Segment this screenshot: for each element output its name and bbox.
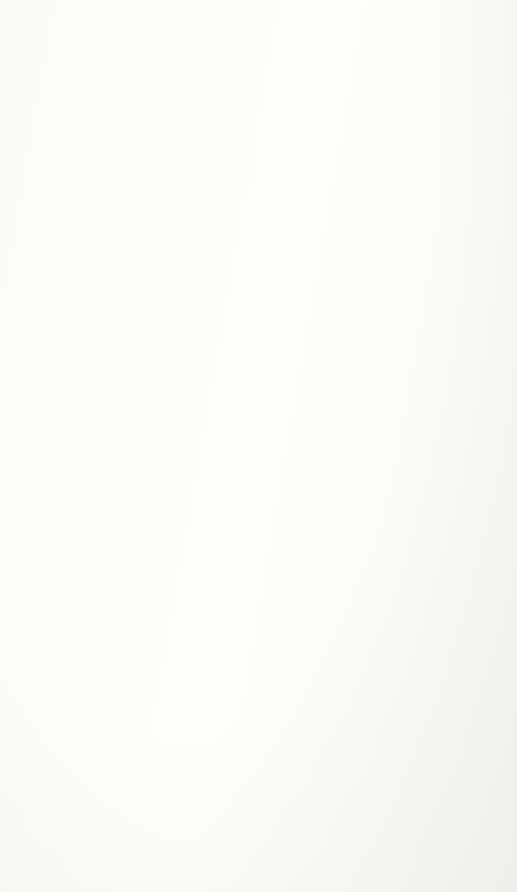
scanned-page: Federal Expenditure Distribution (total … [0, 0, 517, 892]
pie-chart-2013: Non-defense discretionary, $545, 14.9%De… [98, 12, 388, 374]
chart-title-2009-subtitle: (total = $3,518 billion in 2009) [33, 562, 47, 734]
pie-slice-label: Social Security, $678, 19.3% [317, 654, 336, 716]
pie-chart-2009: Non-defense discretionary, $562, 16.0%De… [98, 455, 388, 833]
pie-slice-label: Non-defense discretionary, $562, 16.0% [150, 673, 179, 728]
pie-slice-label: Social Security, $820, 22.4% [317, 200, 336, 262]
pie-slice-label: Interest, $187, 5.3% [217, 508, 236, 550]
pie-slice-label: Defense, $667, 18.3% [228, 275, 247, 333]
pie-slice-label: Non-defense discretionary, $545, 14.9% [149, 216, 178, 271]
pie-slice-label: Other mandatory, $554, 15.2% [289, 87, 318, 134]
pie-slice-label: Medicaid and CHIP, $258, 7.3% [179, 520, 208, 573]
chart-title-2013: Federal Expenditure Distribution (total … [8, 91, 54, 341]
pie-slice-label: Medicaid and CHIP, $293, 8.0% [193, 64, 222, 117]
chart-title-2009-main: Federal Expenditure Distribution [14, 508, 32, 789]
figure-caption: Comparison of 2009 versus 2013 federal d… [484, 387, 498, 887]
pie-slice-label: Medicare, $425, 12.1% [150, 570, 169, 632]
pie-slice-label: Medicare, $528, 14.5% [153, 113, 172, 175]
chart-title-2009: Federal Expenditure Distribution (total … [8, 523, 54, 773]
pie-slice-label: Other mandatory, $751, 21.3% [283, 528, 312, 575]
pie-slice-label: Defense, $657, 18.7% [235, 731, 254, 789]
pie-slice-label: Interest, $246, 6.7% [238, 53, 257, 109]
chart-title-2013-main: Federal Expenditure Distribution [14, 76, 32, 357]
chart-title-2013-subtitle: (total = $3,653 billion in 2013) [33, 130, 47, 302]
